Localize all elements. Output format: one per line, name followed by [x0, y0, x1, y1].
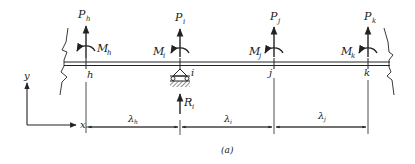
svg-text:h: h	[134, 118, 138, 125]
force-P-h: P h	[77, 8, 91, 58]
svg-text:h: h	[86, 15, 91, 23]
svg-text:i: i	[163, 52, 165, 60]
moment-M-j: M j	[248, 45, 283, 60]
span-label-j: λ j	[317, 110, 326, 123]
svg-text:i: i	[192, 103, 194, 111]
coordinate-axes: y x	[23, 70, 86, 130]
svg-text:P: P	[269, 10, 278, 23]
moment-M-h: M h	[77, 42, 112, 57]
moment-M-k: M k	[340, 45, 377, 60]
svg-text:i: i	[183, 18, 185, 26]
continuous-beam-diagram: P h M h P i M i P j M j P k M k h i j	[0, 0, 415, 164]
figure-caption: (a)	[221, 145, 234, 155]
node-label-j: j	[267, 67, 272, 78]
svg-text:k: k	[351, 52, 355, 60]
span-label-i: λ i	[223, 113, 232, 125]
x-axis-label: x	[80, 119, 86, 130]
beam	[64, 62, 390, 66]
svg-text:h: h	[107, 49, 112, 57]
roller-support-icon	[170, 66, 190, 87]
svg-text:P: P	[174, 11, 183, 24]
node-label-i: i	[191, 67, 194, 78]
span-label-h: λ h	[127, 113, 138, 125]
force-P-i: P i	[174, 11, 185, 57]
moment-M-i: M i	[152, 45, 189, 60]
node-label-k: k	[364, 67, 370, 78]
reaction-R-i: R i	[180, 94, 194, 114]
svg-text:R: R	[183, 96, 192, 109]
svg-text:P: P	[77, 8, 86, 21]
y-axis-label: y	[23, 70, 30, 81]
svg-text:k: k	[372, 17, 376, 25]
node-label-h: h	[87, 69, 93, 80]
svg-text:P: P	[363, 10, 372, 23]
force-P-j: P j	[269, 10, 281, 57]
svg-text:i: i	[230, 118, 232, 125]
